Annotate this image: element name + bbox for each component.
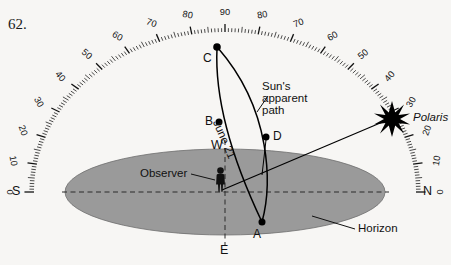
scale-tick-south-0: 0 <box>435 189 445 194</box>
cardinal-south-label: S <box>12 185 20 199</box>
scale-tick-north-10: 10 <box>8 155 20 167</box>
scale-tick-south-60: 60 <box>325 29 339 43</box>
scale-tick-south-80: 80 <box>256 9 268 21</box>
scale-tick-north-40: 40 <box>53 69 67 83</box>
polaris-label: Polaris <box>413 111 448 123</box>
cardinal-west-label: W <box>211 139 223 153</box>
observer-label: Observer <box>140 167 187 179</box>
sun-path-label-line1: Sun's <box>262 80 290 92</box>
scale-tick-north-20: 20 <box>17 124 30 137</box>
scale-tick-north-30: 30 <box>32 95 46 109</box>
scale-tick-south-50: 50 <box>356 47 370 61</box>
scale-tick-north-80: 80 <box>182 9 194 21</box>
scale-tick-south-10: 10 <box>431 155 443 167</box>
sun-path-label-line3: path <box>262 104 284 116</box>
scale-tick-north-60: 60 <box>111 29 125 43</box>
point-c-label: C <box>203 52 212 65</box>
sun-path-label-line2: apparent <box>262 92 307 104</box>
scale-tick-south-90: 90 <box>220 7 230 17</box>
cardinal-east-label: E <box>220 244 228 258</box>
point-d-marker <box>263 134 270 141</box>
cardinal-north-label: N <box>423 185 432 199</box>
scale-tick-south-30: 30 <box>404 95 418 109</box>
point-a-marker <box>259 219 266 226</box>
horizon-label: Horizon <box>358 222 398 234</box>
point-a-label: A <box>253 228 261 241</box>
scale-tick-north-70: 70 <box>145 16 158 29</box>
scale-tick-south-70: 70 <box>292 16 305 29</box>
point-d-label: D <box>273 130 282 143</box>
scale-tick-south-40: 40 <box>382 69 396 83</box>
scale-tick-north-50: 50 <box>80 47 94 61</box>
scale-tick-south-20: 20 <box>420 124 433 137</box>
celestial-sphere-figure: 62. 010203040506070809080706050403020100 <box>0 0 451 265</box>
point-c-marker <box>213 43 221 51</box>
